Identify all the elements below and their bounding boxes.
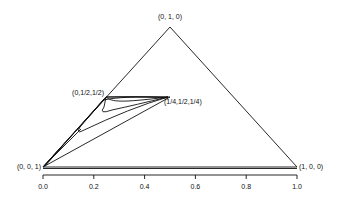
point-label-right: (1/4,1/2,1/4) [164,98,202,106]
x-tick-label: 0.6 [191,183,201,190]
trajectory-curve [45,99,104,166]
trajectory-curve [102,97,168,112]
x-tick-label: 0.2 [89,183,99,190]
point-label-left: (0,1/2,1/2) [72,89,104,97]
vertex-label-bottom-right: (1, 0, 0) [299,163,323,171]
trajectory-curve [78,97,168,132]
x-tick-label: 0.4 [140,183,150,190]
inner-triangle [43,97,170,167]
x-tick-label: 1.0 [292,183,302,190]
x-axis-ticks [43,175,297,179]
x-tick-label: 0.8 [241,183,251,190]
vertex-label-top: (0, 1, 0) [158,13,182,21]
vertex-label-bottom-left: (0, 0, 1) [17,163,41,171]
x-tick-label: 0.0 [38,183,48,190]
simplex-diagram: (0, 1, 0) (0, 0, 1) (1, 0, 0) (0,1/2,1/2… [0,0,340,207]
